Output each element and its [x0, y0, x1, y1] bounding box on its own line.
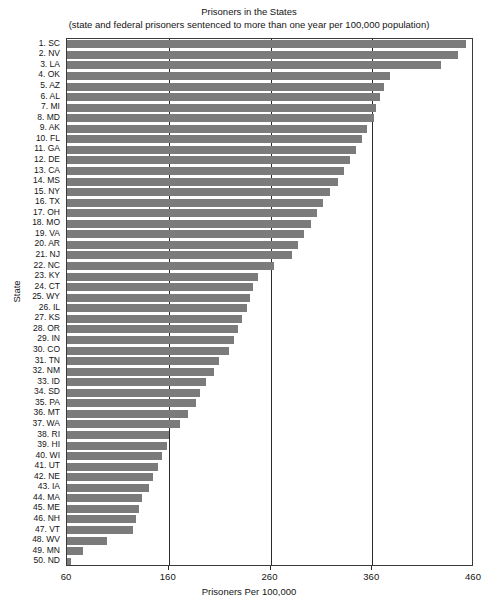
x-axis-tick-label: 160: [160, 571, 176, 582]
y-axis-label: 13. CA: [34, 166, 60, 175]
chart-subtitle: (state and federal prisoners sentenced t…: [0, 18, 498, 31]
bar: [67, 442, 167, 450]
y-axis-label: 35. PA: [35, 398, 60, 407]
y-axis-label: 20. AR: [34, 239, 60, 248]
bar: [67, 40, 466, 48]
y-axis-label: 29. IN: [37, 334, 60, 343]
bar: [67, 167, 344, 175]
y-axis-label: 17. OH: [33, 208, 60, 217]
bar: [67, 93, 380, 101]
y-axis-label: 46. NH: [34, 514, 60, 523]
bar: [67, 463, 158, 471]
bar: [67, 104, 376, 112]
y-axis-label: 8. MD: [37, 113, 60, 122]
y-axis-label: 3. LA: [40, 60, 60, 69]
bar: [67, 473, 153, 481]
y-axis-label: 10. FL: [36, 134, 60, 143]
y-axis-title: State: [11, 262, 22, 322]
bar: [67, 399, 196, 407]
y-axis-label: 11. GA: [34, 144, 60, 153]
y-axis-label: 12. DE: [34, 155, 60, 164]
y-axis-label: 26. IL: [39, 303, 60, 312]
y-axis-label: 31. TN: [35, 356, 60, 365]
bar: [67, 283, 253, 291]
bar: [67, 51, 458, 59]
y-axis-label: 15. NY: [34, 187, 60, 196]
y-axis-label: 39. HI: [37, 440, 60, 449]
bar: [67, 61, 441, 69]
y-axis-tick-labels: 1. SC2. NV3. LA4. OK5. AZ6. AL7. MI8. MD…: [0, 38, 63, 566]
x-axis-tick-label: 260: [262, 571, 278, 582]
x-axis-tick-label: 360: [363, 571, 379, 582]
bar: [67, 156, 350, 164]
y-axis-label: 44. MA: [33, 493, 60, 502]
plot-area: [66, 38, 473, 566]
y-axis-label: 43. IA: [38, 482, 60, 491]
bar: [67, 294, 250, 302]
y-axis-label: 27. KS: [34, 313, 60, 322]
bar: [67, 114, 374, 122]
bar: [67, 484, 149, 492]
y-axis-label: 25. WY: [32, 292, 60, 301]
bar: [67, 304, 247, 312]
y-axis-label: 23. KY: [34, 271, 60, 280]
y-axis-label: 42. NE: [34, 472, 60, 481]
y-axis-label: 49. MN: [33, 546, 60, 555]
y-axis-label: 47. VT: [35, 525, 60, 534]
y-axis-label: 33. ID: [37, 377, 60, 386]
bar: [67, 505, 139, 513]
bar: [67, 378, 206, 386]
prisoners-bar-chart: Prisoners in the States (state and feder…: [0, 0, 498, 615]
y-axis-label: 21. NJ: [35, 250, 60, 259]
bar: [67, 347, 229, 355]
y-axis-label: 14. MS: [33, 176, 60, 185]
y-axis-label: 24. CT: [34, 282, 60, 291]
y-axis-label: 16. TX: [35, 197, 60, 206]
bar: [67, 537, 107, 545]
y-axis-label: 38. RI: [37, 430, 60, 439]
bar: [67, 72, 390, 80]
y-axis-label: 40. WI: [35, 451, 60, 460]
bar: [67, 146, 356, 154]
y-axis-label: 18. MO: [32, 218, 60, 227]
bar: [67, 494, 142, 502]
y-axis-label: 34. SD: [34, 387, 60, 396]
x-axis-tick-label: 60: [61, 571, 72, 582]
x-axis-tick-mark: [371, 566, 372, 570]
bar: [67, 262, 274, 270]
bar: [67, 336, 234, 344]
bar: [67, 357, 219, 365]
y-axis-label: 5. AZ: [40, 81, 60, 90]
y-axis-label: 30. CO: [33, 345, 60, 354]
y-axis-label: 22. NC: [34, 261, 60, 270]
y-axis-label: 32. NM: [33, 366, 60, 375]
y-axis-label: 48. WV: [32, 535, 60, 544]
bar: [67, 199, 323, 207]
bar: [67, 83, 384, 91]
bar: [67, 125, 367, 133]
bar: [67, 410, 188, 418]
y-axis-label: 1. SC: [39, 39, 60, 48]
bar: [67, 230, 304, 238]
bar: [67, 452, 162, 460]
bar: [67, 515, 136, 523]
y-axis-label: 37. WA: [32, 419, 60, 428]
y-axis-label: 45. ME: [33, 503, 60, 512]
y-axis-label: 7. MI: [41, 102, 60, 111]
y-axis-label: 4. OK: [38, 70, 60, 79]
y-axis-label: 6. AL: [41, 92, 60, 101]
bar: [67, 178, 338, 186]
x-axis-tick-mark: [168, 566, 169, 570]
y-axis-label: 36. MT: [34, 408, 60, 417]
x-axis-title: Prisoners Per 100,000: [0, 586, 498, 597]
y-axis-label: 28. OR: [33, 324, 60, 333]
y-axis-label: 19. VA: [35, 229, 60, 238]
bar: [67, 526, 133, 534]
bar: [67, 420, 180, 428]
x-axis-tick-mark: [270, 566, 271, 570]
bar: [67, 315, 242, 323]
bar: [67, 251, 292, 259]
y-axis-label: 9. AK: [40, 123, 60, 132]
bar: [67, 241, 298, 249]
y-axis-label: 2. NV: [39, 49, 60, 58]
